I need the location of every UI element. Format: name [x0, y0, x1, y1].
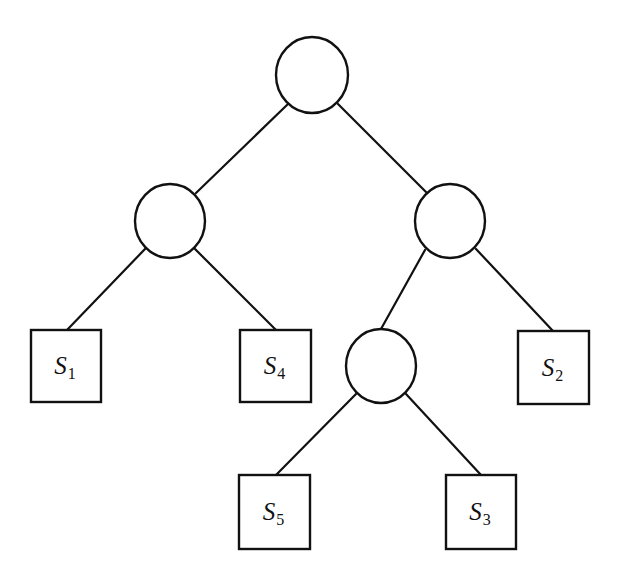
leaf-label-symbol: S [54, 352, 67, 379]
internal-node-right-left [346, 329, 416, 403]
leaf-label-symbol: S [469, 498, 482, 525]
edge-left-to-S1 [67, 249, 145, 330]
leaf-label-symbol: S [542, 354, 555, 381]
leaf-node-S2: S2 [518, 331, 589, 404]
leaf-label-symbol: S [263, 498, 276, 525]
leaf-label-subscript: 4 [277, 365, 285, 382]
internal-node-root [276, 37, 348, 113]
internal-node-left [135, 184, 205, 258]
binary-tree-diagram: S1S4S2S5S3 [0, 0, 622, 582]
edge-right-to-right-left [381, 250, 425, 329]
edge-right-left-to-S3 [406, 394, 481, 475]
leaf-label-subscript: 3 [483, 511, 491, 528]
leaf-label-subscript: 2 [555, 367, 563, 384]
tree-edges [67, 104, 553, 475]
edge-root-to-right [338, 104, 427, 193]
edge-root-to-left [196, 104, 288, 193]
leaf-node-S3: S3 [446, 475, 516, 549]
leaf-label-subscript: 1 [68, 365, 76, 382]
edge-right-left-to-S5 [276, 394, 356, 475]
edge-left-to-S4 [195, 249, 276, 330]
leaf-node-S5: S5 [239, 475, 310, 549]
leaf-node-S4: S4 [240, 330, 311, 402]
leaf-label-symbol: S [264, 352, 277, 379]
leaf-node-S1: S1 [31, 330, 101, 402]
leaf-label-subscript: 5 [276, 511, 284, 528]
internal-node-right [415, 184, 485, 258]
edge-right-to-S2 [476, 249, 553, 331]
